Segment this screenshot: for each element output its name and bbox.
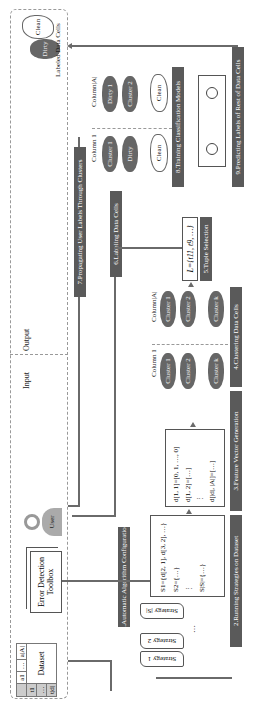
step-7-bar: 7.Propagating User Labels Through Cluste… xyxy=(74,147,86,297)
strategy-1: Strategy 1 xyxy=(140,651,184,667)
strategy-output-S: S|S|={…} xyxy=(196,520,209,592)
cluster-colA-2: Cluster 2 xyxy=(180,291,196,327)
input-label: Input xyxy=(22,372,31,389)
prop-column-A-label: Column|A| xyxy=(90,77,98,107)
arrow-3-to-4 xyxy=(190,422,196,427)
strategy-output-ellipsis: ⋮ xyxy=(183,520,196,592)
dataset-row-ellipsis: … xyxy=(37,683,47,696)
tuple-to-labeling-line xyxy=(114,247,182,249)
feature-vector-2: d[1, 2]=[…] xyxy=(182,434,194,502)
labeling-to-user-line xyxy=(114,277,116,517)
diagram-canvas: Input Output a1…a|A| t1Dataset … t|d| Er… xyxy=(0,0,262,707)
dataset-col-a1: a1 xyxy=(17,672,27,684)
prop-column-1-label: Column 1 xyxy=(90,134,98,162)
propagation-connector xyxy=(68,505,80,507)
toolbox-label: Error Detection Toolbox xyxy=(37,557,55,607)
classifier-icon-2 xyxy=(206,87,218,99)
prop-col1-clean: Clean xyxy=(150,134,168,172)
prop-col1-dirty: Dirty xyxy=(122,136,138,172)
strategy-2: Strategy 2 xyxy=(140,633,184,649)
feature-vector-last: d[|d|, |A|]=[…] xyxy=(206,434,218,502)
output-clean-cloud: Clean xyxy=(22,15,54,39)
output-arrow xyxy=(67,43,72,49)
cluster-column-divider xyxy=(152,344,228,345)
cluster-column-1-label: Column 1 xyxy=(150,349,158,377)
step-8-bar: 8.Training Classification Models xyxy=(172,67,184,187)
arrow-2-to-3 xyxy=(186,509,192,514)
user-label: User xyxy=(48,515,56,528)
propagation-line xyxy=(78,297,80,507)
prop-colA-clean: Clean xyxy=(150,74,168,112)
dataset-label: Dataset xyxy=(27,644,57,684)
user-head-icon xyxy=(24,514,40,530)
feature-vector-ellipsis: ⋮ xyxy=(194,434,206,502)
strategy-bracket xyxy=(156,677,232,679)
strategy-2-label: Strategy 2 xyxy=(148,637,177,645)
tuple-selection-box: L={t11, t9, …} xyxy=(182,217,198,281)
cluster-colA-k: Cluster k xyxy=(208,291,224,327)
step-6-bar: 6.Labeling Data Cells xyxy=(110,191,122,277)
feature-vector-1: d[1, 1]=[0, 1, …, 0] xyxy=(170,434,182,502)
cluster-col1-1: Cluster 1 xyxy=(160,353,176,389)
tuple-formula: L={t11, t9, …} xyxy=(186,225,195,272)
dataset-row-tD: t|d| xyxy=(47,683,57,696)
user-feedback-line xyxy=(72,515,114,517)
strategy-1-label: Strategy 1 xyxy=(148,655,177,663)
prediction-to-output-line xyxy=(72,45,238,47)
dataset-col-aA: a|A| xyxy=(17,644,27,660)
cluster-col1-2: Cluster 2 xyxy=(180,353,196,389)
step-2-bar: 2.Running Strategies on Dataset xyxy=(230,515,242,647)
user-body: User xyxy=(42,508,62,536)
step-1-bar: 1.Automatic Algorithm Configuration xyxy=(118,527,130,627)
strategy-ellipsis: … xyxy=(188,625,197,633)
feature-vector-box: d[1, 1]=[0, 1, …, 0] d[1, 2]=[…] ⋮ d[|d|… xyxy=(165,429,225,507)
step-3-bar: 3.Feature Vector Generation xyxy=(230,391,242,511)
output-label: Output xyxy=(22,329,31,351)
cluster-colA-1: Cluster 1 xyxy=(160,291,176,327)
prop-col1-cluster1: Cluster 1 xyxy=(102,136,118,172)
strategy-output-2: S2={…} xyxy=(170,520,183,592)
prop-colA-dirty1: Dirty 1 xyxy=(102,76,118,112)
arrow-4-to-5 xyxy=(188,282,194,287)
error-detection-toolbox: Error Detection Toolbox xyxy=(30,551,62,613)
dataset-col-ellipsis: … xyxy=(17,660,27,672)
input-output-divider xyxy=(10,354,68,355)
prop-column-divider xyxy=(92,128,172,129)
step-9-bar: 9.Predicting Labels of Rest of Data Cell… xyxy=(232,47,244,187)
prop-colA-cluster2: Cluster 2 xyxy=(122,76,138,112)
dataset-row-t1: t1 xyxy=(27,683,37,696)
strategy-output-1: S1={d[2, 1], d[3, 2], …} xyxy=(157,520,170,592)
dataset-connector xyxy=(110,660,112,691)
dataset-to-strategies-line xyxy=(68,660,112,662)
step-5-bar: 5.Tuple Selection xyxy=(200,217,212,281)
strategy-S: Strategy |S| xyxy=(140,603,184,619)
cluster-col1-k: Cluster k xyxy=(208,353,224,389)
strategy-results-box: S1={d[2, 1], d[3, 2], …} S2={…} ⋮ S|S|={… xyxy=(150,515,225,597)
strategy-S-label: Strategy |S| xyxy=(146,607,178,615)
user-avatar: User xyxy=(20,512,64,532)
dataset-table: a1…a|A| t1Dataset … t|d| xyxy=(16,643,57,697)
toolbox-to-strategy-line xyxy=(62,580,152,582)
step-4-bar: 4.Clustering Data Cells xyxy=(230,287,242,387)
cluster-column-A-label: Column|A| xyxy=(150,292,158,322)
output-label-text: Labeled Data Cells xyxy=(54,23,62,77)
classifier-icon-1 xyxy=(206,143,218,155)
propagation-to-columns-line xyxy=(78,137,80,147)
